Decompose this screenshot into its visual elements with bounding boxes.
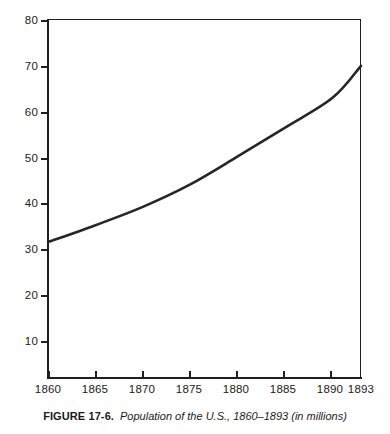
x-tick-mark	[142, 371, 144, 379]
x-tick-label: 1880	[223, 383, 249, 395]
y-axis-line	[47, 19, 49, 379]
y-tick-label: 10	[16, 335, 38, 347]
y-tick-mark	[41, 295, 49, 297]
y-tick-label: 50	[16, 152, 38, 164]
x-tick-label: 1865	[82, 383, 108, 395]
y-tick-mark	[41, 112, 49, 114]
plot-area	[48, 19, 361, 378]
x-tick-label: 1893	[348, 383, 374, 395]
y-tick-mark	[41, 66, 49, 68]
x-tick-label: 1890	[317, 383, 343, 395]
x-tick-label: 1870	[129, 383, 155, 395]
figure-caption: FIGURE 17-6.Population of the U.S., 1860…	[0, 410, 390, 422]
figure-caption-title: Population of the U.S., 1860–1893 (in mi…	[120, 410, 347, 422]
x-tick-mark	[236, 371, 238, 379]
x-tick-label: 1875	[176, 383, 202, 395]
figure-root: 80 70 60 50 40 30 20 10 1860 1865 1870 1…	[0, 0, 390, 434]
x-tick-mark	[189, 371, 191, 379]
y-tick-label: 70	[16, 60, 38, 72]
y-tick-label: 40	[16, 197, 38, 209]
y-tick-mark	[41, 341, 49, 343]
y-tick-mark	[41, 203, 49, 205]
x-tick-label: 1885	[270, 383, 296, 395]
x-tick-mark	[95, 371, 97, 379]
y-tick-label: 30	[16, 243, 38, 255]
x-tick-mark	[283, 371, 285, 379]
x-tick-mark	[330, 371, 332, 379]
y-tick-mark	[41, 158, 49, 160]
y-tick-label: 60	[16, 106, 38, 118]
x-tick-label: 1860	[35, 383, 61, 395]
y-tick-mark	[41, 249, 49, 251]
x-tick-mark	[48, 371, 50, 379]
y-tick-mark	[41, 20, 49, 22]
y-tick-label: 20	[16, 289, 38, 301]
figure-caption-label: FIGURE 17-6.	[43, 410, 114, 422]
y-tick-label: 80	[16, 14, 38, 26]
